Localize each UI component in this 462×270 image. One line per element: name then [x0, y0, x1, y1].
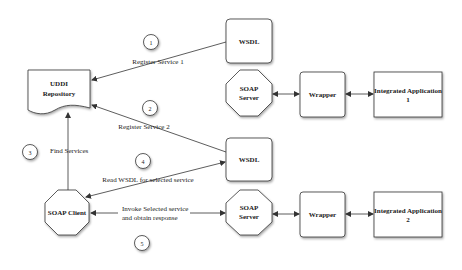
- uddi-label-line2: Repository: [43, 90, 76, 98]
- soa-diagram: UDDI Repository WSDL SOAP Server Wrapper…: [0, 0, 462, 270]
- step-1-number: 1: [150, 40, 153, 46]
- soap-server-bottom-line2: Server: [239, 213, 259, 221]
- step-5-label-line1: Invoke Selected service: [122, 205, 188, 213]
- wsdl-bottom-node: WSDL: [226, 138, 272, 181]
- wrapper-bottom-label: Wrapper: [309, 211, 336, 219]
- step-2: 2 Register Service 2: [118, 101, 170, 132]
- step-5-label-line2: and obtain response: [122, 214, 178, 222]
- step-4-number: 4: [142, 159, 145, 165]
- app1-label-line1: Integrated Application: [374, 87, 442, 95]
- step-3-label: Find Services: [50, 147, 89, 155]
- step-1-label: Register Service 1: [132, 58, 184, 66]
- app2-label-line2: 2: [406, 216, 410, 224]
- soap-server-top-node: SOAP Server: [226, 70, 272, 116]
- wrapper-bottom-node: Wrapper: [300, 192, 345, 237]
- wrapper-top-node: Wrapper: [300, 72, 345, 117]
- step-3: 3 Find Services: [23, 145, 89, 160]
- soap-client-node: SOAP Client: [45, 190, 89, 235]
- wsdl-bottom-label: WSDL: [239, 156, 260, 164]
- step-5: 5 Invoke Selected service and obtain res…: [122, 205, 188, 251]
- soap-client-label: SOAP Client: [48, 209, 87, 217]
- app2-label-line1: Integrated Application: [374, 207, 442, 215]
- wsdl-top-label: WSDL: [239, 38, 260, 46]
- soap-server-bottom-line1: SOAP: [240, 204, 259, 212]
- soap-server-top-line1: SOAP: [240, 85, 259, 93]
- soap-server-top-line2: Server: [239, 94, 259, 102]
- wrapper-top-label: Wrapper: [309, 91, 336, 99]
- app1-label-line2: 1: [406, 96, 410, 104]
- soap-server-bottom-node: SOAP Server: [226, 190, 272, 235]
- integrated-app-2-node: Integrated Application 2: [374, 192, 442, 237]
- step-2-label: Register Service 2: [118, 123, 170, 131]
- step-1: 1 Register Service 1: [132, 35, 184, 67]
- uddi-repository-node: UDDI Repository: [28, 70, 90, 114]
- step-2-number: 2: [149, 106, 152, 112]
- uddi-label-line1: UDDI: [50, 80, 68, 88]
- wsdl-top-node: WSDL: [226, 19, 272, 63]
- step-5-number: 5: [141, 241, 144, 247]
- step-3-number: 3: [29, 150, 32, 156]
- step-4: 4 Read WSDL for selected service: [102, 154, 193, 185]
- integrated-app-1-node: Integrated Application 1: [374, 72, 442, 117]
- step-4-label: Read WSDL for selected service: [102, 176, 193, 184]
